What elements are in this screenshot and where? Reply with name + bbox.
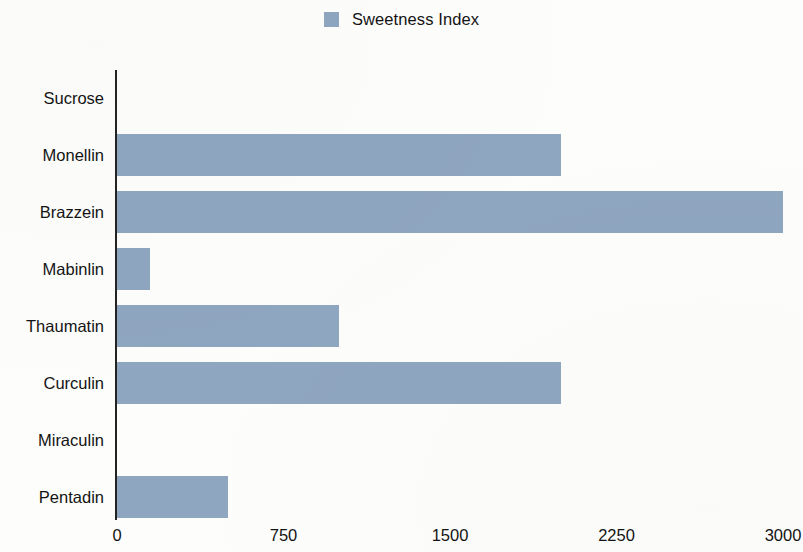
x-axis-tick-label: 2250 (598, 527, 635, 544)
y-axis-label: Sucrose (43, 90, 104, 107)
bar (117, 134, 561, 176)
x-axis-tick-label: 0 (112, 527, 121, 544)
plot-area: SucroseMonellinBrazzeinMabinlinThaumatin… (0, 0, 803, 552)
bar (117, 362, 561, 404)
x-axis-tick-label: 1500 (432, 527, 469, 544)
x-axis-origin-tick (115, 508, 117, 520)
y-axis-label: Brazzein (40, 204, 104, 221)
bar (117, 191, 783, 233)
y-axis-label: Miraculin (38, 432, 104, 449)
x-axis-tick-label: 750 (270, 527, 298, 544)
bar (117, 248, 150, 290)
y-axis-label: Mabinlin (43, 261, 104, 278)
x-axis-tick-label: 3000 (765, 527, 802, 544)
y-axis-category-labels: SucroseMonellinBrazzeinMabinlinThaumatin… (0, 0, 104, 552)
bar-chart: Sweetness Index SucroseMonellinBrazzeinM… (0, 0, 803, 552)
y-axis-label: Monellin (43, 147, 104, 164)
y-axis-label: Curculin (43, 375, 104, 392)
y-axis-label: Thaumatin (26, 318, 104, 335)
bar (117, 476, 228, 518)
y-axis-line (115, 70, 117, 519)
y-axis-label: Pentadin (39, 489, 104, 506)
bar (117, 305, 339, 347)
